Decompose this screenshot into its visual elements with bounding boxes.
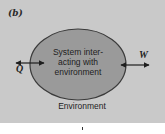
tick-mark: [82, 127, 83, 130]
thermodynamics-figure: (b) System inter- acting with environmen…: [0, 0, 165, 134]
heat-label: Q: [16, 63, 23, 74]
system-label-line-2: acting with: [44, 57, 112, 67]
work-label: W: [139, 49, 148, 60]
system-label-line-3: environment: [44, 67, 112, 77]
environment-label: Environment: [52, 101, 112, 111]
system-label-line-1: System inter-: [44, 47, 112, 57]
system-label: System inter- acting with environment: [44, 47, 112, 77]
panel-label: (b): [8, 8, 23, 18]
